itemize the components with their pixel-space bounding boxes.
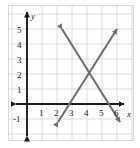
x-axis-label: x xyxy=(127,110,131,119)
graph-screenshot: 5 4 3 2 1 -1 1 2 3 4 5 6 x y xyxy=(0,0,140,148)
x-tick-label-1: 1 xyxy=(39,109,44,118)
x-tick-label-6: 6 xyxy=(114,109,119,118)
x-tick-label-4: 4 xyxy=(84,109,89,118)
x-tick-label-3: 3 xyxy=(69,109,74,118)
x-tick-label-2: 2 xyxy=(54,109,59,118)
y-tick-label-4: 4 xyxy=(17,41,22,50)
y-tick-label-2: 2 xyxy=(17,71,22,80)
y-tick-label-neg1: -1 xyxy=(13,115,21,124)
y-axis-label: y xyxy=(31,12,35,21)
x-tick-label-5: 5 xyxy=(99,109,104,118)
grid-vertical xyxy=(12,6,132,140)
y-tick-label-1: 1 xyxy=(17,86,22,95)
y-tick-label-3: 3 xyxy=(17,56,22,65)
y-tick-label-5: 5 xyxy=(17,26,22,35)
